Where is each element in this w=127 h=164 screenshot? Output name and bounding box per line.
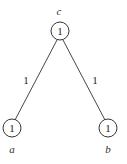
node-a: 1 a bbox=[3, 119, 21, 155]
node-c: 1 c bbox=[51, 5, 69, 40]
node-b: 1 b bbox=[99, 119, 117, 155]
node-label: c bbox=[57, 5, 62, 17]
edge-c-a bbox=[15, 40, 57, 120]
node-value: 1 bbox=[57, 25, 63, 37]
node-value: 1 bbox=[9, 122, 15, 134]
edge-weight-c-a: 1 bbox=[23, 74, 29, 86]
node-label: a bbox=[9, 143, 15, 155]
node-label: b bbox=[105, 143, 111, 155]
node-value: 1 bbox=[105, 122, 111, 134]
tree-diagram: 1 1 1 c 1 a 1 b bbox=[0, 0, 127, 164]
edge-weight-c-b: 1 bbox=[92, 74, 98, 86]
edge-c-b bbox=[63, 40, 105, 120]
